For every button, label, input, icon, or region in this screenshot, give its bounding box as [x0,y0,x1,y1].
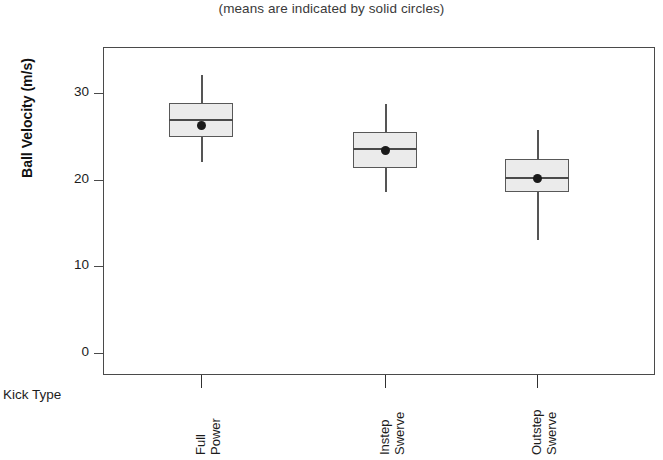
y-axis-tick-mark [94,266,103,267]
y-axis-tick-mark [94,353,103,354]
x-axis-tick-mark [537,375,538,388]
category-label-line: Power [208,418,223,455]
y-axis-title: Ball Velocity (m/s) [19,18,35,218]
whisker-lower [385,168,387,191]
y-axis-tick-label: 0 [47,344,89,359]
mean-marker [381,146,390,155]
mean-marker [197,121,206,130]
category-label-line: Full [193,418,208,455]
whisker-upper [537,130,539,159]
plot-area [103,47,655,375]
y-axis-tick-mark [94,93,103,94]
category-label-line: Swerve [392,412,407,455]
x-axis-tick-mark [201,375,202,388]
chart-subtitle: (means are indicated by solid circles) [0,1,663,16]
y-axis-tick-mark [94,180,103,181]
y-axis-tick-label: 20 [47,171,89,186]
whisker-upper [201,75,203,103]
whisker-lower [537,192,539,241]
category-label-line: Instep [377,412,392,455]
category-label-line: Swerve [544,409,559,455]
boxplot-figure: (means are indicated by solid circles) B… [0,0,663,460]
x-axis-category-label: InstepSwerve [377,412,407,455]
x-axis-title: Kick Type [3,387,61,402]
y-axis-tick-label: 30 [47,84,89,99]
y-axis-tick-label: 10 [47,257,89,272]
whisker-upper [385,104,387,132]
whisker-lower [201,137,203,162]
x-axis-category-label: FullPower [193,418,223,455]
category-label-line: Outstep [529,409,544,455]
x-axis-category-label: OutstepSwerve [529,409,559,455]
x-axis-tick-mark [385,375,386,388]
mean-marker [533,174,542,183]
